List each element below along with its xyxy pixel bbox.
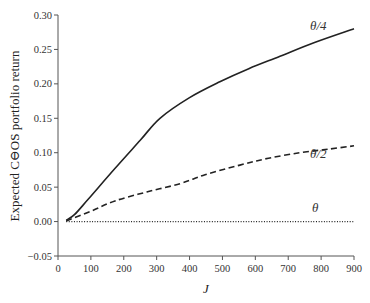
x-tick-label: 500 <box>215 263 231 274</box>
label-theta-quarter: θ/4 <box>310 18 327 33</box>
x-tick-label: 200 <box>116 263 132 274</box>
y-tick-label: 0.10 <box>34 147 52 158</box>
series-theta-quarter-line <box>66 29 354 220</box>
x-tick-label: 900 <box>346 263 362 274</box>
x-tick-label: 700 <box>280 263 296 274</box>
y-tick-label: 0.25 <box>34 44 52 55</box>
y-tick-label: 0.15 <box>34 113 52 124</box>
x-tick-label: 0 <box>55 263 60 274</box>
y-tick-label: 0.00 <box>34 216 52 227</box>
series-group <box>66 29 354 222</box>
x-axis-label: J <box>203 281 210 296</box>
y-axis-label: Expected C⊖OS portfolio return <box>7 50 22 221</box>
x-tick-label: 800 <box>313 263 329 274</box>
y-tick-label: 0.30 <box>34 10 52 21</box>
axes: −0.050.000.050.100.150.200.250.300100200… <box>7 10 362 297</box>
labels: θ/4θ/2θ <box>310 18 327 215</box>
x-tick-label: 600 <box>247 263 263 274</box>
y-tick-label: 0.20 <box>34 78 52 89</box>
label-theta: θ <box>312 200 319 215</box>
y-tick-label: 0.05 <box>34 182 52 193</box>
x-tick-label: 100 <box>83 263 99 274</box>
y-tick-label: −0.05 <box>28 251 52 262</box>
x-tick-label: 400 <box>182 263 198 274</box>
line-chart: −0.050.000.050.100.150.200.250.300100200… <box>0 0 370 303</box>
x-tick-label: 300 <box>149 263 165 274</box>
label-theta-half: θ/2 <box>310 146 327 161</box>
